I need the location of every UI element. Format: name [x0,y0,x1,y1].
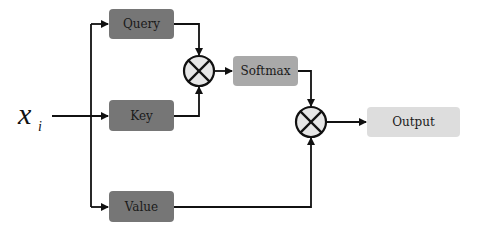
input-symbol: x [17,97,32,130]
value-node: Value [109,191,174,222]
softmax-to-multiply-arrow [298,71,311,106]
softmax-node: Softmax [233,56,298,86]
key-label: Key [130,109,153,123]
value-to-multiply-arrow [174,138,311,207]
multiply-icon [296,107,326,137]
key-to-multiply-arrow [174,87,199,116]
query-node: Query [109,9,174,39]
attention-diagram: x i Query Key Value [0,0,480,235]
output-node: Output [367,107,460,137]
softmax-label: Softmax [240,64,290,78]
value-label: Value [124,200,158,214]
key-node: Key [109,100,174,131]
query-label: Query [123,17,160,31]
query-to-multiply-arrow [174,24,199,55]
multiply-icon [184,56,214,86]
output-label: Output [392,115,435,129]
input-subscript: i [38,119,42,134]
input-label: x i [17,97,42,134]
